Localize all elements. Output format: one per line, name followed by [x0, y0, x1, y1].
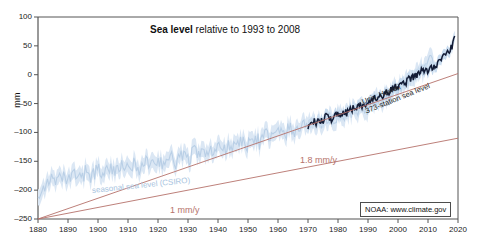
- x-tick-label: 1900: [81, 225, 115, 234]
- x-tick-label: 1940: [201, 225, 235, 234]
- x-tick-marks: [38, 219, 458, 223]
- y-tick-label: –250: [6, 214, 32, 223]
- x-tick-label: 1880: [21, 225, 55, 234]
- chart-title-rest: relative to 1993 to 2008: [193, 24, 300, 35]
- y-tick-label: –50: [6, 99, 32, 108]
- x-tick-label: 1930: [171, 225, 205, 234]
- annotation-rate-1mm: 1 mm/y: [170, 205, 200, 215]
- source-credit-box: NOAA: www.climate.gov: [360, 202, 451, 217]
- x-tick-label: 1980: [321, 225, 355, 234]
- x-tick-label: 2020: [441, 225, 475, 234]
- y-tick-label: 100: [6, 12, 32, 21]
- y-tick-label: 50: [6, 41, 32, 50]
- x-tick-label: 1950: [231, 225, 265, 234]
- x-tick-label: 1910: [111, 225, 145, 234]
- x-tick-label: 1990: [351, 225, 385, 234]
- x-tick-label: 1970: [291, 225, 325, 234]
- annotation-rate-1p8mm: 1.8 mm/y: [300, 155, 337, 165]
- x-tick-label: 1960: [261, 225, 295, 234]
- y-tick-label: –200: [6, 185, 32, 194]
- chart-title-bold: Sea level: [150, 24, 193, 35]
- x-tick-label: 1890: [51, 225, 85, 234]
- chart-title: Sea level relative to 1993 to 2008: [150, 24, 300, 35]
- x-tick-label: 1920: [141, 225, 175, 234]
- x-tick-label: 2000: [381, 225, 415, 234]
- y-tick-label: 0: [6, 70, 32, 79]
- y-tick-label: –150: [6, 156, 32, 165]
- csiro-uncertainty-band: [38, 47, 434, 206]
- x-tick-label: 2010: [411, 225, 445, 234]
- sea-level-chart-figure: mm Sea level relative to 1993 to 2008 10…: [0, 0, 480, 246]
- y-tick-label: –100: [6, 127, 32, 136]
